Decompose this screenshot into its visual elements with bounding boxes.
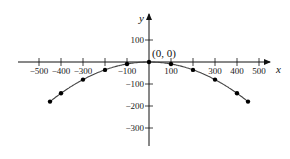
data-point <box>147 60 151 64</box>
data-point <box>81 77 85 81</box>
y-tick-label: 100 <box>131 35 145 45</box>
labels: −500−400−300−100100300400500100−100−200−… <box>30 12 281 133</box>
axes <box>18 14 270 146</box>
data-point <box>235 91 239 95</box>
data-point <box>48 99 52 103</box>
y-tick-label: −200 <box>125 101 144 111</box>
x-tick-label: 500 <box>252 66 266 76</box>
data-point <box>103 68 107 72</box>
y-tick-label: −100 <box>125 79 144 89</box>
x-tick-label: −400 <box>52 66 71 76</box>
data-point <box>191 68 195 72</box>
x-tick-label: 300 <box>208 66 222 76</box>
data-point <box>213 77 217 81</box>
y-tick-label: −300 <box>125 123 144 133</box>
x-tick-label: −100 <box>118 66 137 76</box>
origin-annotation: (0, 0) <box>152 47 176 60</box>
x-tick-label: −500 <box>30 66 49 76</box>
x-tick-label: 400 <box>230 66 244 76</box>
x-tick-label: −300 <box>74 66 93 76</box>
y-axis-label: y <box>138 12 144 24</box>
x-axis-label: x <box>275 63 281 75</box>
x-tick-label: 100 <box>164 66 178 76</box>
data-point <box>246 99 250 103</box>
parabola-chart: −500−400−300−100100300400500100−100−200−… <box>0 0 290 159</box>
data-point <box>59 91 63 95</box>
